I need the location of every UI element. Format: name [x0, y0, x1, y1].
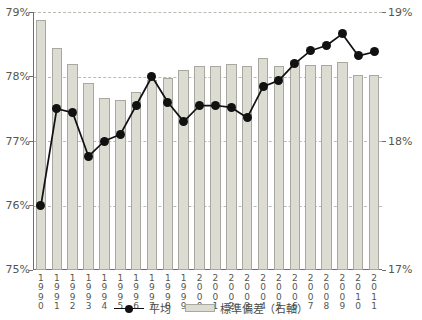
data-point-1993 [84, 152, 93, 161]
plot-area [33, 12, 382, 270]
line-marker-icon [114, 304, 144, 313]
data-point-1996 [132, 101, 141, 110]
data-point-2003 [243, 113, 252, 122]
bar-swatch-icon [185, 304, 215, 312]
line-series-layer [33, 12, 382, 270]
data-point-1995 [116, 130, 125, 139]
chart-legend: 平均 標準偏差（右軸） [0, 300, 422, 316]
legend-label-stddev: 標準偏差（右軸） [220, 300, 308, 316]
tick-left-75 [29, 270, 33, 271]
data-point-2000 [195, 101, 204, 110]
y-axis-left-tick-75: 75% [0, 264, 30, 275]
y-axis-right-tick-18: 18% [388, 136, 422, 147]
tick-right-19 [382, 12, 386, 13]
y-axis-right-tick-17: 17% [388, 264, 422, 275]
chart-container: 79% 78% 77% 76% 75% 19% 18% 17% 19901991… [0, 0, 422, 320]
y-axis-left-tick-79: 79% [0, 7, 30, 18]
y-axis-left-tick-77: 77% [0, 136, 30, 147]
tick-right-17 [382, 270, 386, 271]
y-axis-left-tick-76: 76% [0, 200, 30, 211]
data-point-2008 [322, 41, 331, 50]
average-line [41, 34, 374, 206]
data-point-2002 [227, 103, 236, 112]
legend-label-average: 平均 [149, 300, 171, 316]
data-point-1994 [100, 137, 109, 146]
legend-item-stddev[interactable]: 標準偏差（右軸） [185, 300, 308, 316]
data-point-2004 [259, 82, 268, 91]
y-axis-left-tick-78: 78% [0, 71, 30, 82]
y-axis-right-tick-19: 19% [388, 7, 422, 18]
legend-item-average[interactable]: 平均 [114, 300, 171, 316]
tick-right-18 [382, 141, 386, 142]
data-point-2001 [211, 101, 220, 110]
